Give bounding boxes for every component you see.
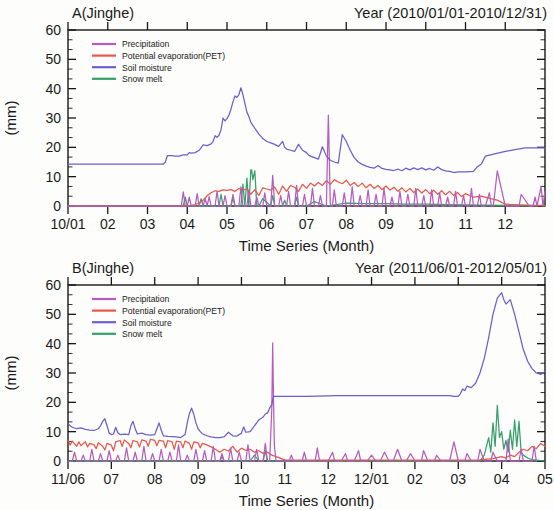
y-axis-label: (mm) (2, 101, 19, 136)
y-tick-label: 40 (45, 81, 61, 97)
y-tick-label: 40 (45, 336, 61, 352)
x-tick-label: 12/01 (354, 471, 389, 487)
x-tick-label: 08 (147, 471, 163, 487)
x-tick-label: 05 (219, 216, 235, 232)
x-tick-label: 11 (458, 216, 473, 232)
y-tick-label: 60 (45, 277, 61, 293)
y-tick-label: 20 (45, 394, 61, 410)
x-tick-label: 11/06 (51, 471, 85, 487)
y-tick-label: 30 (45, 110, 61, 126)
y-tick-label: 20 (45, 139, 61, 155)
x-tick-label: 10 (234, 471, 250, 487)
x-tick-label: 11 (278, 471, 293, 487)
series-line-precipitation (68, 115, 545, 206)
x-tick-label: 06 (259, 216, 275, 232)
x-tick-label: 02 (407, 471, 423, 487)
x-tick-label: 07 (299, 216, 315, 232)
legend-label: Soil moisture (122, 318, 172, 328)
x-tick-label: 07 (104, 471, 120, 487)
figure-container: A(Jinghe)Year (2010/01/01-2010/12/31)010… (0, 0, 554, 510)
panel-title-left: B(Jinghe) (72, 260, 134, 276)
panel-title-right: Year (2010/01/01-2010/12/31) (354, 5, 547, 21)
panel-b: B(Jinghe)Year (2011/06/01-2012/05/01)010… (0, 255, 554, 510)
panel-a-svg: A(Jinghe)Year (2010/01/01-2010/12/31)010… (0, 0, 554, 255)
legend-label: Potential evaporation(PET) (122, 51, 225, 61)
x-tick-label: 03 (450, 471, 466, 487)
legend-label: Soil moisture (122, 63, 172, 73)
legend-label: Potential evaporation(PET) (122, 306, 225, 316)
x-tick-label: 03 (140, 216, 156, 232)
y-tick-label: 10 (45, 169, 61, 185)
x-tick-label: 08 (338, 216, 354, 232)
y-tick-label: 50 (45, 306, 61, 322)
y-tick-label: 0 (53, 453, 61, 469)
y-axis-label: (mm) (2, 356, 19, 391)
x-tick-label: 05 (537, 471, 553, 487)
y-tick-label: 10 (45, 424, 61, 440)
x-axis-label: Time Series (Month) (239, 237, 374, 254)
y-tick-label: 50 (45, 51, 61, 67)
panel-b-svg: B(Jinghe)Year (2011/06/01-2012/05/01)010… (0, 255, 554, 510)
panel-title-right: Year (2011/06/01-2012/05/01) (355, 260, 547, 276)
y-tick-label: 0 (53, 198, 61, 214)
legend-label: Precipitation (122, 294, 170, 304)
x-tick-label: 12 (320, 471, 336, 487)
x-tick-label: 10/01 (50, 216, 85, 232)
series-line-soil_moisture (68, 88, 545, 172)
legend-label: Snow melt (122, 329, 163, 339)
panel-a: A(Jinghe)Year (2010/01/01-2010/12/31)010… (0, 0, 554, 255)
series-line-pet (68, 439, 545, 460)
x-tick-label: 04 (494, 471, 510, 487)
y-tick-label: 60 (45, 22, 61, 38)
x-tick-label: 04 (179, 216, 195, 232)
x-axis-label: Time Series (Month) (239, 492, 374, 509)
x-tick-label: 09 (190, 471, 206, 487)
x-tick-label: 12 (497, 216, 513, 232)
x-tick-label: 02 (100, 216, 116, 232)
y-tick-label: 30 (45, 365, 61, 381)
panel-title-left: A(Jinghe) (72, 5, 134, 21)
legend-label: Snow melt (122, 74, 163, 84)
x-tick-label: 09 (378, 216, 394, 232)
legend-label: Precipitation (122, 39, 170, 49)
x-tick-label: 10 (418, 216, 434, 232)
